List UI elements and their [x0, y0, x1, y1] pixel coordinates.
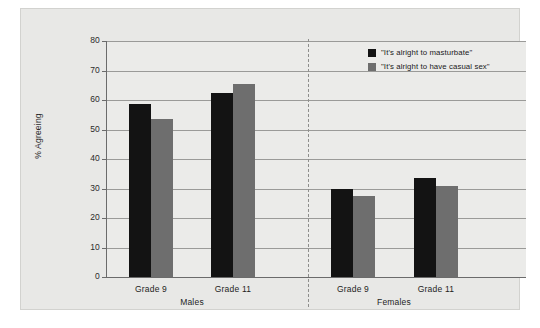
bar-females-grade9-series1 — [331, 189, 353, 278]
y-axis-title: % Agreeing — [33, 113, 43, 158]
figure-frame: 01020304050607080 % Agreeing Grade 9 Gra… — [20, 8, 520, 310]
bar-males-grade11-series2 — [233, 84, 255, 277]
y-tick-label: 20 — [68, 212, 100, 223]
y-tick-label-text: 50 — [74, 124, 100, 134]
y-tick-label: 10 — [68, 242, 100, 253]
bars-layer — [106, 41, 526, 277]
group-divider-line — [308, 39, 309, 307]
y-tick-label-text: 70 — [74, 65, 100, 75]
legend-label-masturbate: "It's alright to masturbate" — [381, 48, 472, 57]
bar-males-grade11-series1 — [211, 93, 233, 277]
y-tick-label: 30 — [68, 183, 100, 194]
bar-females-grade11-series1 — [414, 178, 436, 277]
bar-males-grade9-series2 — [151, 119, 173, 277]
legend-swatch-light-icon — [368, 63, 376, 71]
category-label-males-grade11: Grade 11 — [201, 284, 265, 294]
legend-item-casual-sex: "It's alright to have casual sex" — [368, 61, 528, 72]
y-tick-label-text: 30 — [74, 183, 100, 193]
y-tick-label-text: 10 — [74, 242, 100, 252]
y-tick-label-text: 60 — [74, 94, 100, 104]
legend-item-masturbate: "It's alright to masturbate" — [368, 47, 528, 58]
y-tick-label: 0 — [68, 271, 100, 282]
bar-males-grade9-series1 — [129, 104, 151, 277]
legend-swatch-dark-icon — [368, 49, 376, 57]
y-tick-label-text: 0 — [74, 271, 100, 281]
bar-females-grade11-series2 — [436, 186, 458, 277]
y-tick-label: 70 — [68, 65, 100, 76]
x-axis-line — [106, 277, 526, 278]
bar-females-grade9-series2 — [353, 196, 375, 277]
y-tick-label-text: 40 — [74, 153, 100, 163]
y-tick-label-text: 80 — [74, 35, 100, 45]
legend-label-casual-sex: "It's alright to have casual sex" — [381, 62, 490, 71]
category-label-males-grade9: Grade 9 — [119, 284, 183, 294]
group-label-males: Males — [160, 297, 224, 307]
legend: "It's alright to masturbate" "It's alrig… — [368, 47, 528, 75]
y-tick-label: 80 — [68, 35, 100, 46]
group-label-females: Females — [362, 297, 426, 307]
y-tick-label: 40 — [68, 153, 100, 164]
y-tick-label: 50 — [68, 124, 100, 135]
category-label-females-grade11: Grade 11 — [404, 284, 468, 294]
y-tick-label-text: 20 — [74, 212, 100, 222]
category-label-females-grade9: Grade 9 — [321, 284, 385, 294]
bar-chart-figure: 01020304050607080 % Agreeing Grade 9 Gra… — [0, 0, 540, 328]
y-tick-label: 60 — [68, 94, 100, 105]
